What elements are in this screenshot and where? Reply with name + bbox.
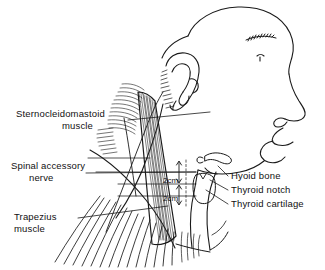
label-thyroid-cartilage: Thyroid cartilage [231, 198, 304, 209]
scm-posterior-striations [97, 128, 117, 154]
label-sternocleidomastoid-line2: muscle [62, 120, 93, 131]
hyoid-bone-outline [197, 153, 231, 164]
label-hyoid-bone: Hyoid bone [231, 170, 281, 181]
anatomy-figure: Sternocleidomastoid muscle Spinal access… [0, 0, 325, 270]
anatomy-line-drawing [0, 0, 325, 270]
scm-upper-striations [108, 84, 144, 134]
head-profile-outline [188, 7, 305, 174]
measurement-label-upper: 2cm [163, 176, 178, 185]
label-spinal-accessory-line2: nerve [29, 172, 54, 183]
label-sternocleidomastoid-line1: Sternocleidomastoid [16, 108, 105, 119]
clavicle-inner [212, 221, 226, 235]
label-trapezius-line2: muscle [14, 223, 45, 234]
hairline-hatching [161, 70, 174, 108]
label-spinal-accessory-line1: Spinal accessory [11, 160, 85, 171]
eyebrow [246, 34, 276, 41]
label-thyroid-notch: Thyroid notch [231, 184, 291, 195]
measurement-label-lower: 2cm [163, 194, 178, 203]
reference-lines [88, 158, 196, 196]
ear [166, 53, 199, 110]
eye [257, 55, 264, 62]
label-trapezius-line1: Trapezius [14, 211, 57, 222]
